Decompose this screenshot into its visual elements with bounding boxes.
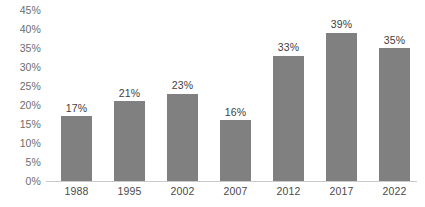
y-axis-tick-label: 0% bbox=[26, 176, 41, 187]
bar-value-label: 35% bbox=[368, 34, 421, 46]
bar-value-label: 17% bbox=[50, 102, 103, 114]
x-axis-category-label: 2007 bbox=[209, 185, 262, 198]
x-axis-category-label: 1988 bbox=[50, 185, 103, 198]
bar[interactable] bbox=[61, 116, 92, 181]
y-axis-tick-label: 35% bbox=[20, 43, 41, 54]
x-axis-category-label: 2022 bbox=[368, 185, 421, 198]
plot-area: 17% 1988 21% 1995 23% 2002 16% 2007 33% … bbox=[46, 0, 425, 207]
bar-group-2022: 35% 2022 bbox=[368, 0, 421, 181]
bar[interactable] bbox=[220, 120, 251, 181]
bar-group-2002: 23% 2002 bbox=[156, 0, 209, 181]
x-axis-line bbox=[46, 181, 417, 182]
bar-value-label: 21% bbox=[103, 87, 156, 99]
bar[interactable] bbox=[326, 33, 357, 181]
bar-group-2017: 39% 2017 bbox=[315, 0, 368, 181]
bar[interactable] bbox=[167, 94, 198, 181]
y-axis-tick-label: 10% bbox=[20, 138, 41, 149]
y-axis-tick-label: 15% bbox=[20, 119, 41, 130]
bar-group-2007: 16% 2007 bbox=[209, 0, 262, 181]
x-axis-category-label: 2012 bbox=[262, 185, 315, 198]
y-axis-tick-label: 40% bbox=[20, 24, 41, 35]
y-axis-tick-label: 5% bbox=[26, 157, 41, 168]
bar-group-2012: 33% 2012 bbox=[262, 0, 315, 181]
y-axis-tick-label: 25% bbox=[20, 81, 41, 92]
bar[interactable] bbox=[379, 48, 410, 181]
bar[interactable] bbox=[114, 101, 145, 181]
x-axis-category-label: 2017 bbox=[315, 185, 368, 198]
bar-value-label: 39% bbox=[315, 18, 368, 30]
bar-value-label: 33% bbox=[262, 41, 315, 53]
bar-value-label: 23% bbox=[156, 79, 209, 91]
bar-group-1988: 17% 1988 bbox=[50, 0, 103, 181]
bar-value-label: 16% bbox=[209, 106, 262, 118]
bar[interactable] bbox=[273, 56, 304, 181]
x-axis-category-label: 1995 bbox=[103, 185, 156, 198]
bar-chart: 45% 40% 35% 30% 25% 20% 15% 10% 5% 0% 17… bbox=[0, 0, 425, 207]
y-axis: 45% 40% 35% 30% 25% 20% 15% 10% 5% 0% bbox=[0, 0, 46, 207]
y-axis-tick-label: 20% bbox=[20, 100, 41, 111]
y-axis-tick-label: 30% bbox=[20, 62, 41, 73]
bar-group-1995: 21% 1995 bbox=[103, 0, 156, 181]
y-axis-tick-label: 45% bbox=[20, 5, 41, 16]
x-axis-category-label: 2002 bbox=[156, 185, 209, 198]
